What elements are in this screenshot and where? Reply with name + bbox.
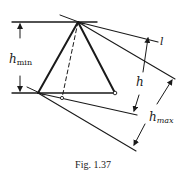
figure-diagram: hmin l h hmax Fig. 1.37 [0,0,187,173]
h-arrow-down [134,95,139,111]
label-h-min: hmin [9,52,32,67]
hmax-arrow-up [157,80,172,104]
dashed-line [62,22,78,98]
label-l: l [160,35,164,48]
h-arrow-up [143,38,148,72]
label-h: h [136,75,144,89]
label-h-max: hmax [149,110,174,125]
triangle-left-side [38,22,78,93]
lower-line-h [38,93,137,115]
line-l [78,22,158,42]
lower-envelope-line [38,93,136,151]
hmax-arrow-down [134,124,145,145]
right-vertex-circle [113,91,117,95]
figure-caption: Fig. 1.37 [75,159,111,170]
foot-circle [60,96,63,99]
